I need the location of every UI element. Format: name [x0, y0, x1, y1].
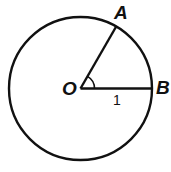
point-label-a: A [114, 3, 128, 22]
geometry-figure: A O B 1 [0, 0, 171, 172]
point-label-o: O [62, 79, 77, 98]
circle-diagram-canvas [0, 0, 171, 172]
angle-aob-arc-mark [88, 76, 95, 88]
radius-length-label: 1 [113, 93, 121, 107]
point-label-b: B [156, 78, 170, 97]
radius-oa-line [81, 26, 117, 89]
